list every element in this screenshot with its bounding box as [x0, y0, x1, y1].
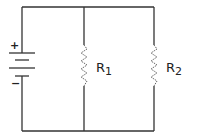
resistor-r1-subscript: 1	[105, 65, 112, 78]
battery-negative-label: −	[11, 77, 20, 90]
resistor-r2-name: R	[166, 60, 175, 75]
resistor-r2-label: R2	[166, 60, 182, 78]
wires	[22, 7, 154, 131]
resistor-r1-name: R	[96, 60, 105, 75]
resistor-r2-icon	[151, 45, 157, 86]
resistor-r1-icon	[81, 45, 87, 86]
battery	[9, 53, 35, 76]
resistor-r2-subscript: 2	[175, 65, 182, 78]
resistor-r1-label: R1	[96, 60, 112, 78]
circuit-diagram: + − R1 R2	[0, 0, 197, 138]
battery-positive-label: +	[10, 39, 19, 52]
